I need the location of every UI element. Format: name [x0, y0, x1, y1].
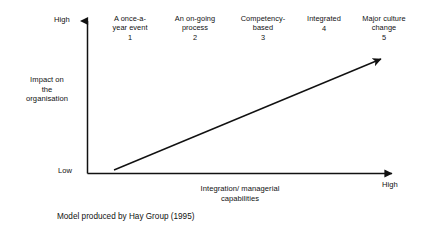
- hay-group-model-figure: High Low Impact on the organisation Inte…: [0, 0, 424, 233]
- stage-label-1: A once-a- year event: [94, 14, 166, 32]
- stage-label-2: An on-going process: [159, 14, 231, 32]
- stage-number-5: 5: [348, 33, 420, 42]
- x-axis-high-label: High: [382, 180, 398, 189]
- trend-arrow: [114, 59, 381, 170]
- figure-caption: Model produced by Hay Group (1995): [57, 212, 194, 222]
- stage-number-1: 1: [94, 33, 166, 42]
- x-axis-title: Integration/ managerial capabilities: [165, 184, 315, 203]
- y-axis-high-label: High: [54, 15, 70, 24]
- stage-number-3: 3: [227, 33, 299, 42]
- y-axis-low-label: Low: [58, 166, 72, 175]
- stage-label-5: Major culture change: [348, 14, 420, 32]
- y-axis-title: Impact on the organisation: [10, 75, 84, 104]
- stage-number-2: 2: [159, 33, 231, 42]
